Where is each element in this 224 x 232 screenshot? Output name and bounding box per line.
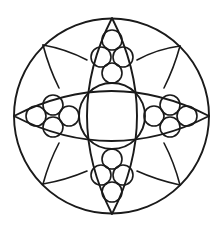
spoke-tr-to-vertical <box>137 46 180 60</box>
central-circle <box>79 83 145 149</box>
rosette-svg <box>0 0 224 232</box>
spoke-br-to-vertical <box>137 171 180 185</box>
small-circle <box>102 63 122 83</box>
vertical-lens <box>87 18 137 214</box>
small-circle <box>144 106 164 126</box>
spoke-bl-to-horizontal <box>43 143 59 184</box>
rosette-diagram <box>0 0 224 232</box>
spoke-br-to-horizontal <box>164 143 180 185</box>
spoke-tr-to-horizontal <box>164 46 180 88</box>
cluster-top <box>91 30 133 83</box>
small-circle <box>102 149 122 169</box>
spoke-tl-to-horizontal <box>43 45 59 88</box>
cluster-right <box>144 95 197 137</box>
spokes <box>43 45 180 185</box>
spoke-bl-to-vertical <box>43 171 87 184</box>
horizontal-lens <box>14 91 209 141</box>
spoke-tl-to-vertical <box>43 45 87 60</box>
cluster-bottom <box>91 149 133 202</box>
cluster-left <box>26 95 79 137</box>
small-circle <box>59 106 79 126</box>
